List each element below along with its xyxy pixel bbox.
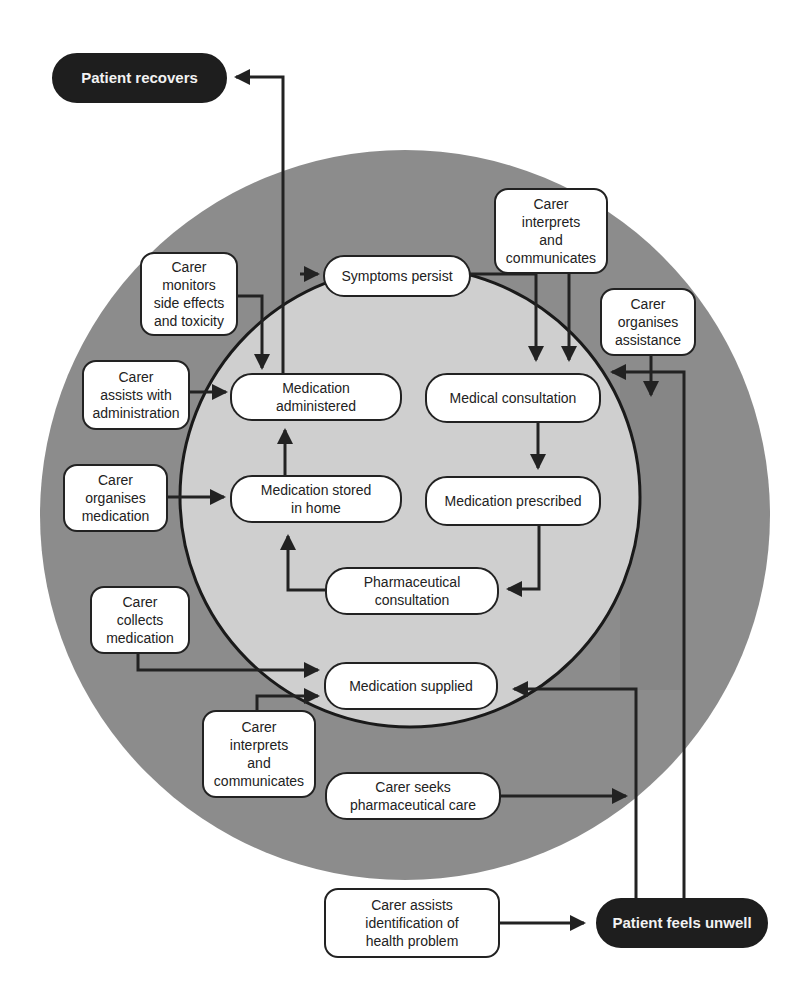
medication-supplied-node: Medication supplied (324, 662, 498, 710)
carer-monitors-node: Carer monitors side effects and toxicity (140, 252, 238, 336)
symptoms-persist-node: Symptoms persist (323, 255, 471, 297)
patient-recovers-node: Patient recovers (52, 53, 227, 103)
medication-prescribed-node: Medication prescribed (425, 476, 601, 526)
medication-stored-node: Medication stored in home (230, 475, 402, 523)
carer-collects-medication-node: Carer collects medication (90, 586, 190, 654)
carer-organises-medication-node: Carer organises medication (63, 464, 168, 532)
carer-organises-assistance-node: Carer organises assistance (600, 288, 696, 356)
medication-administered-node: Medication administered (230, 373, 402, 421)
carer-assists-identification-node: Carer assists identification of health p… (324, 888, 500, 958)
patient-feels-unwell-node: Patient feels unwell (596, 898, 768, 948)
pharmaceutical-consultation-node: Pharmaceutical consultation (325, 567, 499, 615)
carer-assists-administration-node: Carer assists with administration (82, 360, 190, 430)
carer-interprets-top-node: Carer interprets and communicates (494, 188, 608, 274)
medical-consultation-node: Medical consultation (425, 373, 601, 423)
carer-interprets-bottom-node: Carer interprets and communicates (202, 710, 316, 798)
carer-seeks-pharma-node: Carer seeks pharmaceutical care (325, 772, 501, 820)
